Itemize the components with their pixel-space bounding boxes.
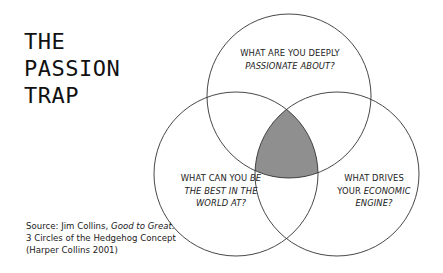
label-passion: WHAT ARE YOU DEEPLY PASSIONATE ABOUT? <box>240 47 340 72</box>
label-line: WHAT DRIVES <box>324 172 424 185</box>
label-line: WORLD AT? <box>166 197 276 210</box>
source-text: Source: Jim Collins, <box>26 221 111 231</box>
label-text: ECONOMIC <box>364 186 411 196</box>
label-text: BE <box>250 173 261 183</box>
source-book-title: Good to Great <box>111 221 172 231</box>
label-line: ENGINE? <box>324 197 424 210</box>
label-text: WHAT CAN YOU <box>181 173 250 183</box>
label-line: THE BEST IN THE <box>166 185 276 198</box>
label-line: YOUR ECONOMIC <box>324 185 424 198</box>
source-citation: Source: Jim Collins, Good to Great. 3 Ci… <box>26 220 176 256</box>
label-line: WHAT CAN YOU BE <box>166 172 276 185</box>
label-text: YOUR <box>337 186 363 196</box>
label-line: PASSIONATE ABOUT? <box>240 60 340 73</box>
label-line: WHAT ARE YOU DEEPLY <box>240 47 340 60</box>
label-economic-engine: WHAT DRIVES YOUR ECONOMIC ENGINE? <box>324 172 424 210</box>
label-best-in-world: WHAT CAN YOU BE THE BEST IN THE WORLD AT… <box>166 172 276 210</box>
